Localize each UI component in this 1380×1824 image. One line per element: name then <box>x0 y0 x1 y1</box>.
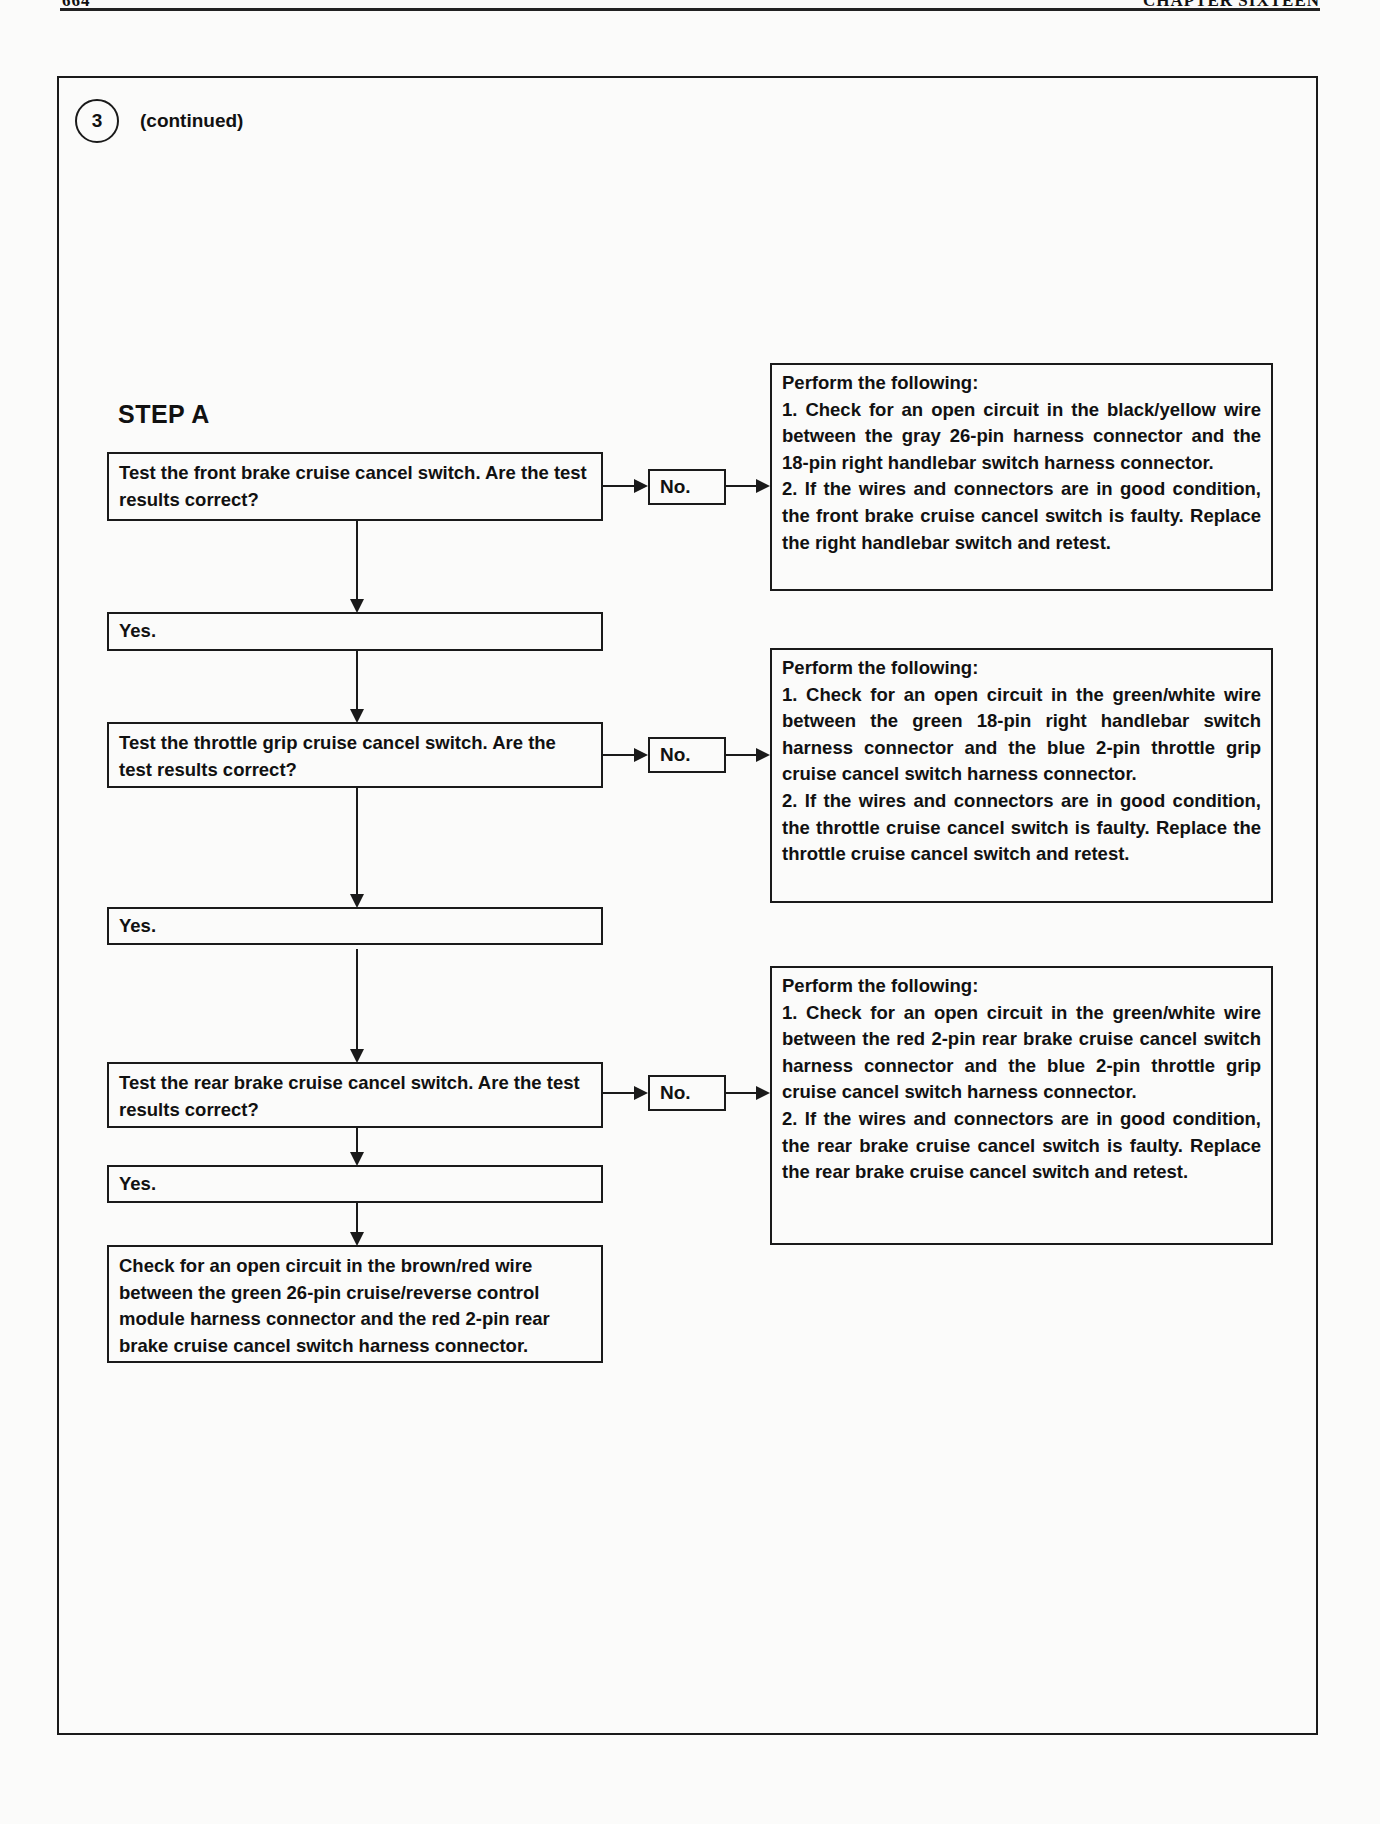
no-box-throttle-grip: No. <box>648 737 726 773</box>
no-box-front-brake: No. <box>648 469 726 505</box>
continued-label: (continued) <box>140 110 243 132</box>
arrow-right-icon <box>634 1086 648 1100</box>
arrow-down-icon <box>350 709 364 723</box>
action-box-rear-brake: Perform the following: 1. Check for an o… <box>770 966 1273 1245</box>
action-box-front-brake: Perform the following: 1. Check for an o… <box>770 363 1273 591</box>
action-heading: Perform the following: <box>782 973 1261 1000</box>
step-number: 3 <box>92 110 103 132</box>
decision-box-front-brake: Test the front brake cruise cancel switc… <box>107 452 603 521</box>
arrow-down-icon <box>350 894 364 908</box>
yes-label: Yes. <box>119 620 156 641</box>
action-box-throttle-grip: Perform the following: 1. Check for an o… <box>770 648 1273 903</box>
action-step: 1. Check for an open circuit in the blac… <box>782 397 1261 477</box>
connector-line <box>356 651 358 711</box>
yes-label: Yes. <box>119 915 156 936</box>
action-heading: Perform the following: <box>782 370 1261 397</box>
arrow-right-icon <box>756 1086 770 1100</box>
flowchart-title: STEP A <box>118 400 210 429</box>
yes-box-front-brake: Yes. <box>107 612 603 651</box>
connector-line <box>726 1092 758 1094</box>
decision-question: Test the throttle grip cruise cancel swi… <box>119 732 556 780</box>
connector-line <box>603 1092 636 1094</box>
yes-label: Yes. <box>119 1173 156 1194</box>
final-action-box: Check for an open circuit in the brown/r… <box>107 1245 603 1363</box>
arrow-right-icon <box>634 748 648 762</box>
decision-box-throttle-grip: Test the throttle grip cruise cancel swi… <box>107 722 603 788</box>
step-number-badge: 3 <box>75 99 119 143</box>
arrow-down-icon <box>350 599 364 613</box>
connector-line <box>726 754 758 756</box>
decision-question: Test the rear brake cruise cancel switch… <box>119 1072 580 1120</box>
arrow-down-icon <box>350 1232 364 1246</box>
arrow-right-icon <box>756 479 770 493</box>
no-label: No. <box>660 476 691 497</box>
figure-frame <box>57 76 1318 1735</box>
yes-box-throttle-grip: Yes. <box>107 907 603 945</box>
action-step: 1. Check for an open circuit in the gree… <box>782 682 1261 788</box>
connector-line <box>603 485 636 487</box>
decision-box-rear-brake: Test the rear brake cruise cancel switch… <box>107 1062 603 1128</box>
action-step: 1. Check for an open circuit in the gree… <box>782 1000 1261 1106</box>
action-step: 2. If the wires and connectors are in go… <box>782 1106 1261 1186</box>
action-step: 2. If the wires and connectors are in go… <box>782 476 1261 556</box>
connector-line <box>726 485 758 487</box>
connector-line <box>356 1128 358 1154</box>
final-action-text: Check for an open circuit in the brown/r… <box>119 1255 550 1356</box>
decision-question: Test the front brake cruise cancel switc… <box>119 462 587 510</box>
no-label: No. <box>660 744 691 765</box>
arrow-down-icon <box>350 1049 364 1063</box>
no-box-rear-brake: No. <box>648 1075 726 1111</box>
yes-box-rear-brake: Yes. <box>107 1165 603 1203</box>
arrow-down-icon <box>350 1152 364 1166</box>
connector-line <box>603 754 636 756</box>
connector-line <box>356 521 358 601</box>
arrow-right-icon <box>634 479 648 493</box>
action-heading: Perform the following: <box>782 655 1261 682</box>
no-label: No. <box>660 1082 691 1103</box>
connector-line <box>356 1203 358 1234</box>
arrow-right-icon <box>756 748 770 762</box>
connector-line <box>356 788 358 896</box>
connector-line <box>356 949 358 1051</box>
header-rule <box>60 8 1320 11</box>
action-step: 2. If the wires and connectors are in go… <box>782 788 1261 868</box>
